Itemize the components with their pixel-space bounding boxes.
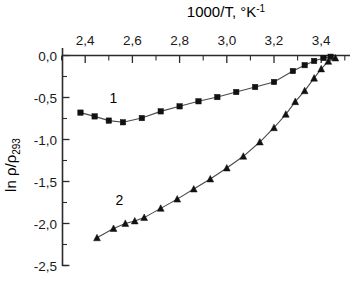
curve-label-layer: 12	[110, 90, 124, 208]
y-axis-title: ln ρ/ρ293	[2, 138, 22, 192]
x-axis-tick-labels: 2,4 2,6 2,8 3,0 3,2 3,4	[76, 33, 331, 48]
data-point-square	[311, 58, 316, 63]
data-point-square	[139, 115, 144, 120]
x-tick-label: 3,0	[217, 33, 236, 48]
data-point-square	[106, 118, 111, 123]
y-axis-tick-labels: 0,0 -0,5 -1,0 -1,5 -2,0 -2,5	[34, 49, 57, 274]
data-point-square	[120, 120, 125, 125]
y-tick-label: -2,5	[34, 259, 57, 274]
series-line-2	[97, 58, 335, 238]
y-tick-label: 0,0	[38, 49, 57, 64]
y-axis-ticks	[63, 56, 70, 266]
x-tick-label: 2,6	[123, 33, 142, 48]
y-axis-title-main: ln ρ/ρ	[2, 155, 19, 192]
data-point-square	[158, 109, 163, 114]
y-tick-label: -0,5	[34, 91, 57, 106]
data-point-square	[196, 99, 201, 104]
x-tick-label: 3,2	[265, 33, 284, 48]
arrhenius-resistivity-chart: 1000/T, °K-1 ln ρ/ρ293	[0, 0, 356, 282]
data-point-triangle	[94, 234, 101, 241]
x-axis-title-degk: °K	[240, 3, 256, 20]
x-tick-label: 2,8	[170, 33, 189, 48]
data-point-triangle	[141, 214, 148, 221]
data-point-square	[215, 94, 220, 99]
data-point-square	[177, 104, 182, 109]
data-point-square	[271, 79, 276, 84]
data-series-layer	[78, 54, 339, 241]
y-tick-label: -1,5	[34, 175, 57, 190]
y-tick-label: -1,0	[34, 133, 57, 148]
data-point-square	[234, 89, 239, 94]
x-tick-label: 2,4	[76, 33, 95, 48]
x-axis-title: 1000/T, °K-1	[187, 3, 266, 20]
x-axis-ticks	[62, 56, 345, 64]
series-line-1	[80, 57, 330, 123]
curve-number-label-1: 1	[110, 90, 118, 106]
x-axis-title-main: 1000/T,	[187, 3, 240, 20]
data-point-triangle	[207, 175, 214, 182]
data-point-triangle	[174, 196, 181, 203]
data-point-square	[302, 62, 307, 67]
series-2	[94, 54, 339, 240]
x-axis-title-exponent: -1	[256, 3, 265, 14]
data-point-square	[92, 114, 97, 119]
data-point-square	[252, 84, 257, 89]
data-point-square	[78, 110, 83, 115]
y-tick-label: -2,0	[34, 217, 57, 232]
data-point-triangle	[223, 164, 230, 171]
data-point-triangle	[157, 205, 164, 212]
x-tick-label: 3,4	[312, 33, 331, 48]
data-point-triangle	[110, 225, 117, 232]
y-axis-title-subscript: 293	[11, 138, 22, 155]
curve-number-label-2: 2	[116, 192, 124, 208]
chart-svg: 1000/T, °K-1 ln ρ/ρ293	[0, 0, 356, 282]
data-point-square	[290, 68, 295, 73]
data-point-triangle	[190, 185, 197, 192]
data-point-square	[321, 55, 326, 60]
